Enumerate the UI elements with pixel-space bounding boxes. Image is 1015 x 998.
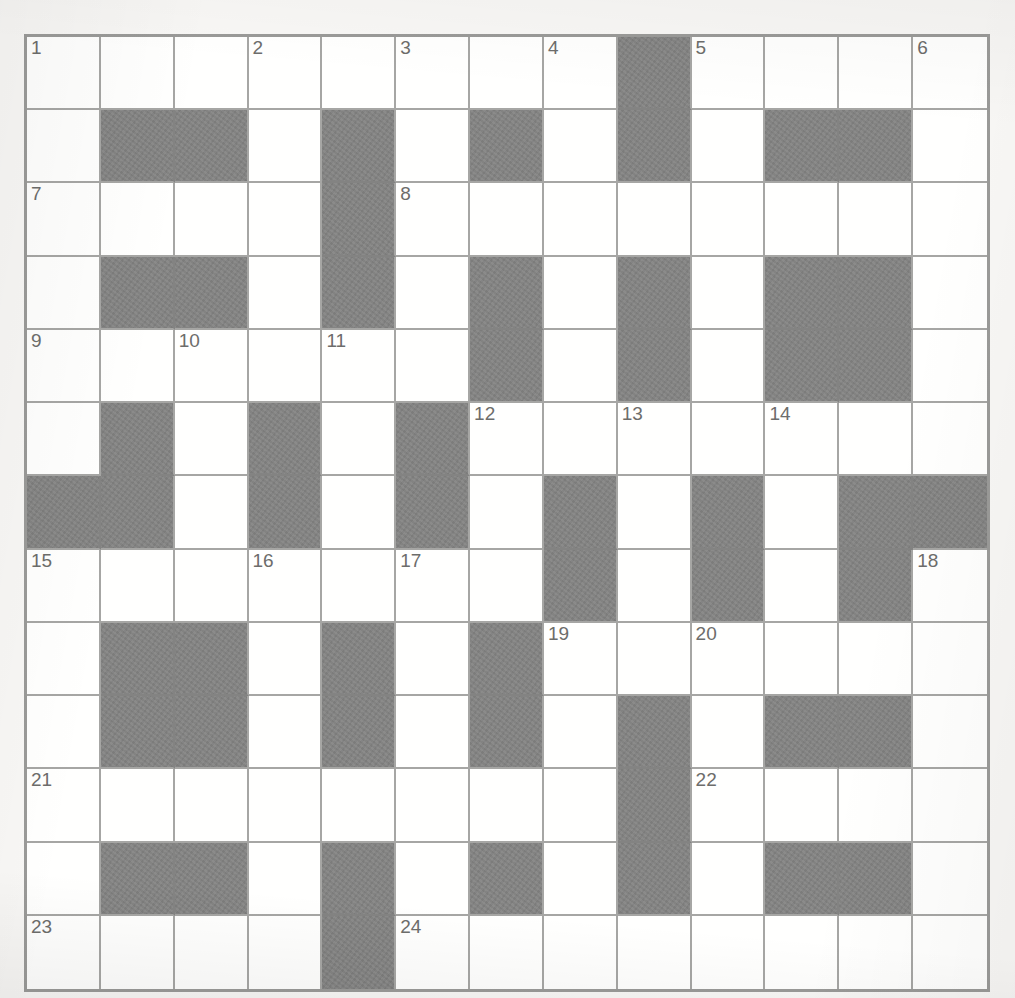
- crossword-cell[interactable]: 1: [27, 37, 101, 110]
- crossword-cell[interactable]: 11: [322, 330, 396, 403]
- crossword-cell[interactable]: [322, 769, 396, 842]
- crossword-cell[interactable]: [27, 257, 101, 330]
- crossword-cell[interactable]: [765, 183, 839, 256]
- crossword-cell[interactable]: [913, 183, 987, 256]
- crossword-cell[interactable]: [249, 623, 323, 696]
- crossword-cell[interactable]: 7: [27, 183, 101, 256]
- crossword-cell[interactable]: 15: [27, 550, 101, 623]
- crossword-cell[interactable]: [692, 843, 766, 916]
- crossword-cell[interactable]: [765, 37, 839, 110]
- crossword-cell[interactable]: [692, 110, 766, 183]
- crossword-cell[interactable]: [396, 623, 470, 696]
- crossword-cell[interactable]: [101, 916, 175, 989]
- crossword-cell[interactable]: [765, 623, 839, 696]
- crossword-cell[interactable]: [913, 623, 987, 696]
- crossword-cell[interactable]: [692, 330, 766, 403]
- crossword-cell[interactable]: 16: [249, 550, 323, 623]
- crossword-cell[interactable]: [249, 769, 323, 842]
- crossword-cell[interactable]: [175, 37, 249, 110]
- crossword-cell[interactable]: [470, 37, 544, 110]
- crossword-cell[interactable]: 21: [27, 769, 101, 842]
- crossword-cell[interactable]: [765, 769, 839, 842]
- crossword-cell[interactable]: [101, 37, 175, 110]
- crossword-cell[interactable]: [470, 183, 544, 256]
- crossword-cell[interactable]: [839, 916, 913, 989]
- crossword-cell[interactable]: [765, 476, 839, 549]
- crossword-cell[interactable]: 6: [913, 37, 987, 110]
- crossword-cell[interactable]: [175, 476, 249, 549]
- crossword-cell[interactable]: [249, 183, 323, 256]
- crossword-cell[interactable]: 12: [470, 403, 544, 476]
- crossword-cell[interactable]: [765, 916, 839, 989]
- crossword-cell[interactable]: [249, 916, 323, 989]
- crossword-cell[interactable]: [839, 403, 913, 476]
- crossword-cell[interactable]: [101, 550, 175, 623]
- crossword-cell[interactable]: 3: [396, 37, 470, 110]
- crossword-cell[interactable]: [692, 183, 766, 256]
- crossword-cell[interactable]: [396, 769, 470, 842]
- crossword-cell[interactable]: [27, 110, 101, 183]
- crossword-cell[interactable]: 17: [396, 550, 470, 623]
- crossword-cell[interactable]: [618, 476, 692, 549]
- crossword-cell[interactable]: [249, 110, 323, 183]
- crossword-cell[interactable]: [913, 696, 987, 769]
- crossword-cell[interactable]: [544, 696, 618, 769]
- crossword-cell[interactable]: [692, 916, 766, 989]
- crossword-cell[interactable]: [322, 550, 396, 623]
- crossword-cell[interactable]: [839, 623, 913, 696]
- crossword-cell[interactable]: [175, 403, 249, 476]
- crossword-cell[interactable]: [839, 37, 913, 110]
- crossword-grid[interactable]: 123456789101112131415161718192021222324: [24, 34, 990, 992]
- crossword-cell[interactable]: [544, 843, 618, 916]
- crossword-cell[interactable]: 20: [692, 623, 766, 696]
- crossword-cell[interactable]: [396, 257, 470, 330]
- crossword-cell[interactable]: 2: [249, 37, 323, 110]
- crossword-cell[interactable]: [249, 330, 323, 403]
- crossword-cell[interactable]: [396, 330, 470, 403]
- crossword-cell[interactable]: [544, 183, 618, 256]
- crossword-cell[interactable]: [544, 257, 618, 330]
- crossword-cell[interactable]: 18: [913, 550, 987, 623]
- crossword-cell[interactable]: [618, 916, 692, 989]
- crossword-cell[interactable]: [27, 696, 101, 769]
- crossword-cell[interactable]: [618, 183, 692, 256]
- crossword-cell[interactable]: [470, 769, 544, 842]
- crossword-cell[interactable]: [913, 843, 987, 916]
- crossword-cell[interactable]: 5: [692, 37, 766, 110]
- crossword-cell[interactable]: [396, 110, 470, 183]
- crossword-cell[interactable]: [322, 37, 396, 110]
- crossword-cell[interactable]: [101, 769, 175, 842]
- crossword-cell[interactable]: 14: [765, 403, 839, 476]
- crossword-cell[interactable]: [913, 110, 987, 183]
- crossword-cell[interactable]: 23: [27, 916, 101, 989]
- crossword-cell[interactable]: [27, 843, 101, 916]
- crossword-cell[interactable]: [175, 550, 249, 623]
- crossword-cell[interactable]: [249, 843, 323, 916]
- crossword-cell[interactable]: [175, 183, 249, 256]
- crossword-cell[interactable]: 22: [692, 769, 766, 842]
- crossword-cell[interactable]: [470, 550, 544, 623]
- crossword-cell[interactable]: [913, 330, 987, 403]
- crossword-cell[interactable]: [913, 257, 987, 330]
- crossword-cell[interactable]: [544, 769, 618, 842]
- crossword-cell[interactable]: [175, 769, 249, 842]
- crossword-cell[interactable]: [839, 183, 913, 256]
- crossword-cell[interactable]: 10: [175, 330, 249, 403]
- crossword-cell[interactable]: [249, 696, 323, 769]
- crossword-cell[interactable]: [913, 916, 987, 989]
- crossword-cell[interactable]: 8: [396, 183, 470, 256]
- crossword-cell[interactable]: 24: [396, 916, 470, 989]
- crossword-cell[interactable]: [322, 403, 396, 476]
- crossword-cell[interactable]: [692, 696, 766, 769]
- crossword-cell[interactable]: [101, 183, 175, 256]
- crossword-cell[interactable]: [101, 330, 175, 403]
- crossword-cell[interactable]: [249, 257, 323, 330]
- crossword-cell[interactable]: [396, 843, 470, 916]
- crossword-cell[interactable]: [470, 476, 544, 549]
- crossword-cell[interactable]: [27, 623, 101, 696]
- crossword-cell[interactable]: [175, 916, 249, 989]
- crossword-cell[interactable]: [692, 257, 766, 330]
- crossword-cell[interactable]: 4: [544, 37, 618, 110]
- crossword-cell[interactable]: 13: [618, 403, 692, 476]
- crossword-cell[interactable]: [396, 696, 470, 769]
